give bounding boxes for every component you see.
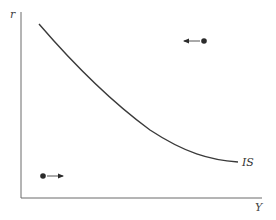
marker-dot bbox=[201, 38, 207, 44]
is-curve-label: IS bbox=[242, 157, 254, 168]
is-curve-diagram bbox=[0, 0, 276, 220]
is-curve bbox=[39, 24, 238, 162]
point-above-is bbox=[184, 38, 207, 44]
marker-dot bbox=[40, 173, 46, 179]
y-axis-label: r bbox=[10, 9, 15, 20]
point-below-is bbox=[40, 173, 63, 179]
x-axis-label: Y bbox=[255, 202, 262, 213]
